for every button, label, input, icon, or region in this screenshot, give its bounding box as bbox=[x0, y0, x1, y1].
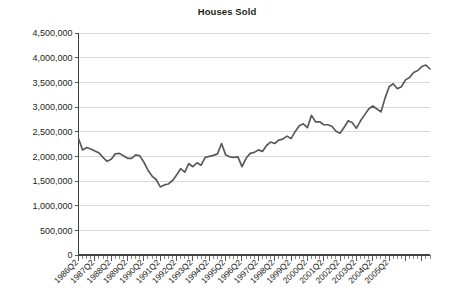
line-chart-plot: 4,500,0004,000,0003,500,0003,000,0002,50… bbox=[0, 0, 454, 308]
axis-lines bbox=[79, 33, 431, 255]
y-tick-label: 4,500,000 bbox=[32, 28, 72, 38]
chart-container: Houses Sold 4,500,0004,000,0003,500,0003… bbox=[0, 0, 454, 308]
series-line-0 bbox=[79, 65, 431, 187]
y-tick-label: 500,000 bbox=[40, 226, 73, 236]
y-tick-label: 3,500,000 bbox=[32, 78, 72, 88]
y-tick-label: 2,500,000 bbox=[32, 127, 72, 137]
y-tick-label: 1,000,000 bbox=[32, 201, 72, 211]
gridlines bbox=[79, 33, 431, 230]
x-axis-labels: 1986Q21987Q21988Q21989Q21990Q21991Q21992… bbox=[52, 257, 391, 285]
y-tick-label: 1,500,000 bbox=[32, 176, 72, 186]
y-tick-label: 3,000,000 bbox=[32, 102, 72, 112]
y-tick-label: 4,000,000 bbox=[32, 53, 72, 63]
y-axis-labels: 4,500,0004,000,0003,500,0003,000,0002,50… bbox=[32, 28, 72, 260]
data-series bbox=[79, 65, 431, 187]
y-tick-label: 2,000,000 bbox=[32, 152, 72, 162]
